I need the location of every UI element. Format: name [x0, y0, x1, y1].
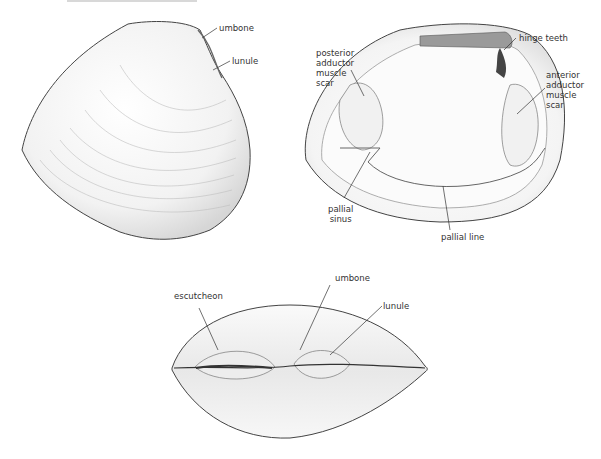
- label-umbone-exterior: umbone: [219, 23, 254, 33]
- exterior-shell: [22, 22, 250, 240]
- label-escutcheon: escutcheon: [174, 291, 223, 301]
- bivalve-shell-diagram: [0, 0, 601, 459]
- label-pallial-sinus: pallial sinus: [328, 204, 353, 224]
- label-hinge-teeth: hinge teeth: [519, 33, 568, 43]
- label-anterior-adductor-muscle-scar: anterior adductor muscle scar: [546, 70, 584, 110]
- dorsal-shell: [172, 305, 427, 438]
- label-umbone-dorsal: umbone: [335, 273, 370, 283]
- label-posterior-adductor-muscle-scar: posterior adductor muscle scar: [316, 48, 354, 88]
- label-pallial-line: pallial line: [441, 232, 484, 242]
- label-lunule-dorsal: lunule: [383, 301, 409, 311]
- label-lunule-exterior: lunule: [232, 56, 258, 66]
